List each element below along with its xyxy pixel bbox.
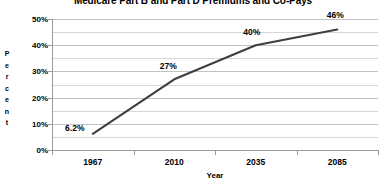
y-tick-mark [47,98,52,99]
x-tick-label: 2010 [134,157,214,167]
x-tick-mark [378,150,379,155]
y-tick-label: 30% [2,67,48,76]
x-tick-mark [297,150,298,155]
data-point-label: 46% [305,10,365,20]
x-tick-label: 2085 [297,157,377,167]
data-point-label: 6.2% [45,123,105,133]
x-tick-mark [215,150,216,155]
y-tick-label: 10% [2,120,48,129]
y-tick-mark [47,19,52,20]
y-tick-label: 40% [2,41,48,50]
x-tick-label: 1967 [53,157,133,167]
line-chart: Medicare Part B and Part D Premiums and … [0,0,386,186]
x-axis-title: Year [52,171,378,180]
data-point-label: 40% [222,27,282,37]
y-tick-label: 0% [2,146,48,155]
series-line [93,29,338,133]
y-tick-label: 20% [2,94,48,103]
y-tick-mark [47,71,52,72]
y-tick-mark [47,45,52,46]
x-tick-label: 2035 [216,157,296,167]
data-point-label: 27% [138,61,198,71]
x-tick-mark [134,150,135,155]
x-tick-mark [52,150,53,155]
y-tick-label: 50% [2,15,48,24]
